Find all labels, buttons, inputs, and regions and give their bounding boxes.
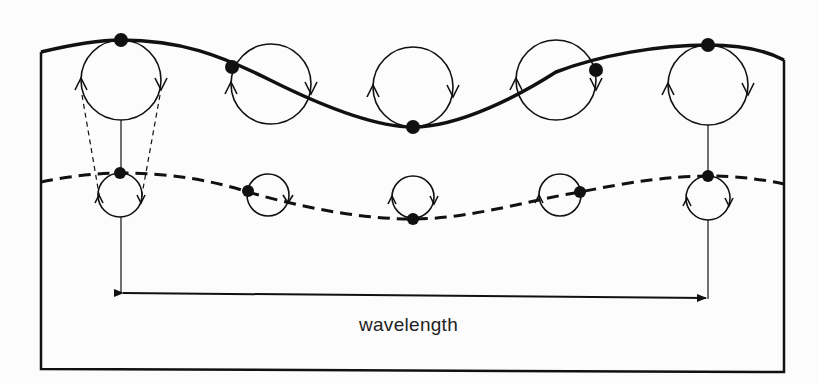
orbit-circle: [668, 45, 748, 125]
orbit-circle: [516, 40, 596, 120]
orbit-circle: [686, 176, 730, 220]
particle-dot: [114, 167, 126, 179]
particle-dots: [114, 33, 715, 225]
particle-dot: [242, 185, 254, 197]
orbit-circle: [373, 47, 453, 127]
large-orbits: [81, 40, 748, 127]
orbit-arrows: [75, 78, 754, 97]
particle-dot: [407, 213, 419, 225]
orbit-circle: [231, 44, 311, 124]
small-orbits: [95, 173, 733, 220]
particle-dot: [574, 186, 586, 198]
particle-dot: [702, 170, 714, 182]
orbit-circle: [98, 173, 142, 217]
surface-wave: [41, 40, 784, 127]
particle-dot: [114, 33, 128, 47]
orbit-circle: [81, 40, 161, 120]
particle-dot: [589, 63, 603, 77]
particle-dot: [406, 120, 420, 134]
orbit-circle: [539, 174, 581, 216]
orbit-circle: [392, 176, 434, 218]
wavelength-label: wavelength: [0, 314, 817, 336]
particle-dot: [701, 38, 715, 52]
subsurface-wave: [41, 173, 784, 219]
guide-lines: [121, 120, 708, 299]
wavelength-arrow: [123, 293, 706, 298]
particle-dot: [225, 60, 239, 74]
